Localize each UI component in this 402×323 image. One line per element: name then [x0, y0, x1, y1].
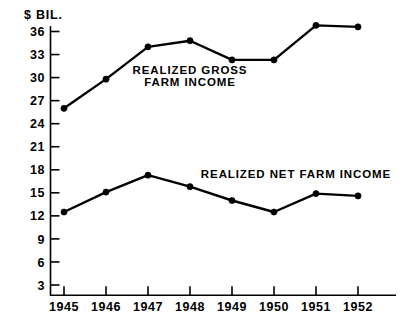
y-axis-tick-label-9: 9	[37, 233, 45, 247]
x-axis-tick-label-1947: 1947	[133, 300, 163, 314]
data-point-realized-net-farm-income-1952	[355, 193, 361, 199]
series-annotations: REALIZED GROSSFARM INCOMEREALIZED NET FA…	[133, 64, 392, 180]
x-axis-tick-label-1952: 1952	[343, 300, 373, 314]
x-axis-tick-label-1949: 1949	[217, 300, 247, 314]
data-point-realized-net-farm-income-1949	[229, 197, 235, 203]
y-axis-tick-label-15: 15	[30, 186, 45, 200]
data-point-realized-net-farm-income-1946	[103, 189, 109, 195]
y-axis-tick-label-30: 30	[30, 71, 45, 85]
annotation-gross-label-line2: FARM INCOME	[144, 76, 236, 88]
x-axis-tick-label-1948: 1948	[175, 300, 205, 314]
y-axis-tick-label-24: 24	[30, 117, 45, 131]
y-axis-unit-label: $ BIL.	[24, 8, 63, 22]
data-point-realized-net-farm-income-1947	[145, 172, 151, 178]
y-axis-tick-labels: 369121518212427303336	[30, 25, 45, 293]
annotation-net-label: REALIZED NET FARM INCOME	[201, 168, 391, 180]
data-point-realized-net-farm-income-1951	[313, 190, 319, 196]
y-axis-tick-label-36: 36	[30, 25, 45, 39]
y-axis-tick-label-33: 33	[30, 48, 45, 62]
y-axis-tick-label-21: 21	[30, 140, 45, 154]
x-axis-ticks	[64, 286, 358, 295]
data-point-realized-gross-farm-income-1950	[271, 57, 277, 63]
y-axis-tick-label-12: 12	[30, 209, 45, 223]
x-axis-tick-label-1946: 1946	[91, 300, 121, 314]
y-axis-ticks	[51, 32, 60, 286]
data-point-realized-gross-farm-income-1946	[103, 76, 109, 82]
data-point-realized-net-farm-income-1950	[271, 209, 277, 215]
x-axis-tick-label-1951: 1951	[301, 300, 331, 314]
annotation-gross-label-line1: REALIZED GROSS	[133, 64, 248, 76]
data-point-realized-gross-farm-income-1948	[187, 38, 193, 44]
data-point-realized-gross-farm-income-1949	[229, 57, 235, 63]
y-axis-tick-label-6: 6	[37, 256, 45, 270]
x-axis-tick-labels: 19451946194719481949195019511952	[49, 300, 373, 314]
y-axis-tick-label-18: 18	[30, 163, 45, 177]
data-point-realized-gross-farm-income-1947	[145, 44, 151, 50]
data-series-group	[61, 22, 361, 215]
x-axis-tick-label-1945: 1945	[49, 300, 79, 314]
data-point-realized-gross-farm-income-1952	[355, 24, 361, 30]
chart-figure: $ BIL. 369121518212427303336 19451946194…	[0, 0, 402, 323]
data-point-realized-net-farm-income-1945	[61, 209, 67, 215]
y-axis-tick-label-3: 3	[37, 279, 45, 293]
line-chart-canvas: $ BIL. 369121518212427303336 19451946194…	[0, 0, 402, 323]
y-axis-tick-label-27: 27	[30, 94, 45, 108]
data-point-realized-gross-farm-income-1945	[61, 105, 67, 111]
data-point-realized-gross-farm-income-1951	[313, 22, 319, 28]
data-point-realized-net-farm-income-1948	[187, 184, 193, 190]
x-axis-tick-label-1950: 1950	[259, 300, 289, 314]
